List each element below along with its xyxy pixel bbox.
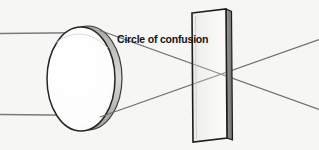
diagram-canvas (0, 0, 319, 150)
film-plane-face (192, 9, 227, 142)
circle-of-confusion-label: Circle of confusion (117, 33, 208, 46)
lens-group (47, 26, 122, 131)
optics-diagram-figure: Circle of confusion (0, 0, 319, 150)
